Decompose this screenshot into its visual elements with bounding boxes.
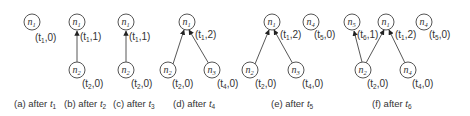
node-tag: (t2,0) <box>172 78 193 90</box>
caption-b: (b) after t2 <box>64 98 107 110</box>
caption-f: (f) after t6 <box>372 98 412 110</box>
caption-a: (a) after t1 <box>14 98 57 110</box>
node-n2: n2 <box>160 62 176 78</box>
node-n4: n4 <box>416 14 432 30</box>
node-n1: n1 <box>264 14 280 30</box>
panel-d: n1 n2 n3 (t1,2) (t2,0) (t4,0) <box>160 14 238 90</box>
node-n1: n1 <box>179 14 195 30</box>
node-n3: n3 <box>204 62 220 78</box>
panel-f: n5 n1 n4 n2 n4 (t6,1) (t1,2) (t5,0) (t2,… <box>344 14 450 90</box>
node-n2: n2 <box>242 62 258 78</box>
node-tag: (t2,0) <box>82 78 103 90</box>
caption-c: (c) after t3 <box>113 98 155 110</box>
node-tag: (t5,0) <box>314 29 335 41</box>
node-tag: (t1,1) <box>129 31 150 43</box>
node-tag: (t4,0) <box>412 78 433 90</box>
node-n5: n5 <box>344 14 360 30</box>
panel-e: n1 n4 n2 n3 (t1,2) (t5,0) (t2,0) (t4,0) <box>242 14 335 90</box>
node-tag: (t4,0) <box>217 78 238 90</box>
caption-e: (e) after t5 <box>271 98 314 110</box>
node-n4-child: n4 <box>400 62 416 78</box>
node-n1: n1 <box>378 14 394 30</box>
node-n4: n4 <box>303 14 319 30</box>
node-tag: (t1,2) <box>280 29 301 41</box>
node-tag: (t4,0) <box>302 78 323 90</box>
node-tag: (t2,0) <box>367 78 388 90</box>
node-tag: (t2,0) <box>255 78 276 90</box>
node-tag: (t1,2) <box>395 29 416 41</box>
caption-d: (d) after t4 <box>173 98 216 110</box>
node-n1: n1 <box>118 14 134 30</box>
node-n2: n2 <box>69 62 85 78</box>
node-n1: n1 <box>24 14 40 30</box>
node-tag: (t5,0) <box>429 29 450 41</box>
node-tag: (t1,1) <box>80 31 101 43</box>
panel-b: n1 n2 (t1,1) (t2,0) <box>69 14 103 90</box>
node-tag: (t1,2) <box>195 29 216 41</box>
node-n2: n2 <box>118 62 134 78</box>
node-tag: (t2,0) <box>131 78 152 90</box>
captions: (a) after t1 (b) after t2 (c) after t3 (… <box>14 98 412 110</box>
node-tag: (t6,1) <box>357 29 378 41</box>
node-n3: n3 <box>288 62 304 78</box>
node-n1: n1 <box>69 14 85 30</box>
edge-arrow <box>173 30 184 64</box>
panel-a: n1 (t1,0) <box>24 14 56 44</box>
panel-c: n1 n2 (t1,1) (t2,0) <box>118 14 152 90</box>
edge-arrow <box>255 30 269 64</box>
node-n2: n2 <box>355 62 371 78</box>
diagram-canvas: n1 (t1,0) n1 n2 (t1,1) (t2,0) n1 n2 (t1,… <box>0 0 470 116</box>
node-tag: (t1,0) <box>35 32 56 44</box>
